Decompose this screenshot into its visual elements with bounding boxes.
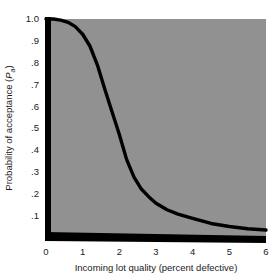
y-axis-title-text: Probability of acceptance ( <box>3 78 14 191</box>
x-tick-label: 1 <box>80 246 85 257</box>
x-tick-label: 6 <box>263 246 268 257</box>
svg-text:Probability of acceptance (Pa): Probability of acceptance (Pa) <box>3 65 16 190</box>
x-tick-label: 4 <box>190 246 195 257</box>
x-tick-label: 5 <box>227 246 232 257</box>
y-tick-label: .5 <box>31 122 39 133</box>
y-axis-tick-labels: 1.0.9.8.7.6.5.4.3.2.1 <box>26 13 39 220</box>
y-tick-label: 1.0 <box>26 13 39 24</box>
y-tick-label: .8 <box>31 57 39 68</box>
y-axis-title: Probability of acceptance (Pa) <box>3 65 16 190</box>
y-axis-line <box>45 17 51 239</box>
chart-canvas: 1.0.9.8.7.6.5.4.3.2.1 0123456 Probabilit… <box>0 0 279 278</box>
y-tick-label: .9 <box>31 35 39 46</box>
y-tick-label: .1 <box>31 210 39 221</box>
y-tick-label: .7 <box>31 79 39 90</box>
y-tick-label: .6 <box>31 101 39 112</box>
x-axis-title: Incoming lot quality (percent defective) <box>75 262 238 273</box>
y-axis-title-paren: ) <box>3 65 14 68</box>
oc-curve-figure: 1.0.9.8.7.6.5.4.3.2.1 0123456 Probabilit… <box>0 0 279 278</box>
x-axis-tick-labels: 0123456 <box>43 246 268 257</box>
x-tick-label: 3 <box>153 246 158 257</box>
y-tick-label: .2 <box>31 188 39 199</box>
x-tick-label: 0 <box>43 246 48 257</box>
y-tick-label: .4 <box>31 144 39 155</box>
y-tick-label: .3 <box>31 166 39 177</box>
x-tick-label: 2 <box>117 246 122 257</box>
